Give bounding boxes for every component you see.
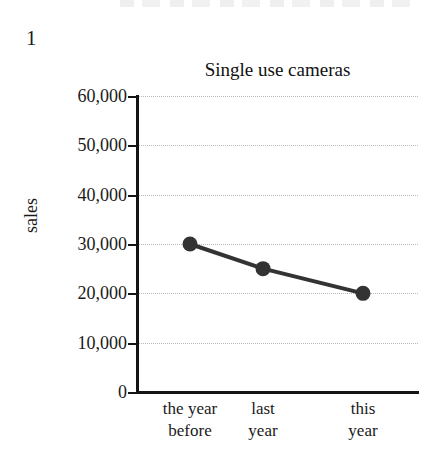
data-point-marker [183,237,198,252]
y-axis-tick-label: 0 [17,383,127,401]
x-axis-tick-label: this year [303,398,423,443]
data-series-line [137,96,418,392]
x-axis-tick-labels: the year beforelast yearthis year [137,398,418,455]
y-axis-tick-label: 10,000 [17,334,127,352]
y-axis-spine [136,95,139,393]
y-axis-tick-label: 60,000 [17,87,127,105]
plot-area [137,96,418,392]
data-point-marker [356,286,371,301]
y-axis-tick-label: 40,000 [17,186,127,204]
data-point-marker [256,261,271,276]
y-axis-tick-label: 20,000 [17,284,127,302]
cropped-header-artifact [120,0,420,7]
question-number: 1 [26,28,37,49]
y-axis-tick-label: 30,000 [17,235,127,253]
x-axis-spine [136,391,419,394]
y-axis-tick-label: 50,000 [17,136,127,154]
y-axis-tick-labels: 60,00050,00040,00030,00020,00010,0000 [12,96,127,392]
chart-title: Single use cameras [137,60,418,81]
chart-page: 1 Single use cameras sales 60,00050,0004… [0,0,434,455]
